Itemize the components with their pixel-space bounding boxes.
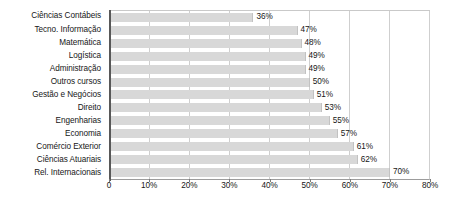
bar-value-label: 49% — [309, 65, 325, 73]
category-label: Rel. Internacionais — [0, 167, 105, 180]
bar — [109, 103, 322, 112]
x-tick-label: 40% — [261, 182, 277, 190]
x-tick-label: 10% — [141, 182, 157, 190]
category-label: Economia — [0, 128, 105, 141]
category-label: Administração — [0, 62, 105, 75]
x-tick-mark — [430, 179, 431, 182]
x-tick-label: 70% — [382, 182, 398, 190]
bar-row: 48% — [109, 37, 429, 50]
bar-value-label: 70% — [393, 168, 409, 176]
x-tick-label: 0 — [107, 182, 112, 190]
bar-row: 53% — [109, 101, 429, 114]
bar-row: 51% — [109, 89, 429, 102]
bar — [109, 65, 306, 74]
bar-value-label: 36% — [256, 13, 272, 21]
bar-value-label: 47% — [301, 26, 317, 34]
category-label: Ciências Contábeis — [0, 10, 105, 23]
bar — [109, 78, 310, 87]
bar — [109, 26, 298, 35]
bar-value-label: 49% — [309, 52, 325, 60]
x-tick-label: 60% — [342, 182, 358, 190]
x-tick-mark — [229, 179, 230, 182]
plot-area: 36%47%48%49%49%50%51%53%55%57%61%62%70% — [109, 10, 430, 180]
bar-row: 62% — [109, 153, 429, 166]
bar-value-label: 50% — [313, 78, 329, 86]
bars-layer: 36%47%48%49%49%50%51%53%55%57%61%62%70% — [109, 11, 429, 179]
category-label: Comércio Exterior — [0, 141, 105, 154]
bar-value-label: 62% — [361, 156, 377, 164]
x-tick-mark — [109, 179, 110, 182]
gridline — [429, 11, 430, 179]
x-tick-mark — [390, 179, 391, 182]
x-tick-mark — [350, 179, 351, 182]
bar-row: 49% — [109, 50, 429, 63]
x-tick-label: 30% — [221, 182, 237, 190]
x-tick-label: 50% — [302, 182, 318, 190]
x-tick-mark — [149, 179, 150, 182]
category-label: Matemática — [0, 36, 105, 49]
category-label: Direito — [0, 102, 105, 115]
bar-value-label: 55% — [333, 117, 349, 125]
category-label: Logística — [0, 49, 105, 62]
category-label: Engenharias — [0, 115, 105, 128]
bar-value-label: 51% — [317, 91, 333, 99]
bar-value-label: 57% — [341, 130, 357, 138]
x-tick-mark — [270, 179, 271, 182]
bar-row: 47% — [109, 24, 429, 37]
x-tick-mark — [189, 179, 190, 182]
bar-chart: Ciências ContábeisTecno. InformaçãoMatem… — [0, 0, 458, 212]
category-label: Gestão e Negócios — [0, 88, 105, 101]
bar — [109, 129, 338, 138]
bar-row: 36% — [109, 11, 429, 24]
category-label: Outros cursos — [0, 75, 105, 88]
bar — [109, 39, 302, 48]
bar-row: 57% — [109, 127, 429, 140]
bar-row: 55% — [109, 114, 429, 127]
x-tick-label: 80% — [422, 182, 438, 190]
bar — [109, 168, 390, 177]
bar-row: 49% — [109, 63, 429, 76]
category-label: Tecno. Informação — [0, 23, 105, 36]
bar-row: 70% — [109, 166, 429, 179]
bar — [109, 142, 354, 151]
bar-row: 61% — [109, 140, 429, 153]
category-axis-labels: Ciências ContábeisTecno. InformaçãoMatem… — [0, 10, 105, 180]
bar — [109, 52, 306, 61]
bar — [109, 13, 253, 22]
bar-value-label: 48% — [305, 39, 321, 47]
bar — [109, 155, 358, 164]
y-axis-line — [109, 10, 111, 181]
category-label: Ciências Atuariais — [0, 154, 105, 167]
bar-row: 50% — [109, 76, 429, 89]
x-tick-mark — [310, 179, 311, 182]
bar — [109, 90, 314, 99]
bar-value-label: 53% — [325, 104, 341, 112]
x-tick-label: 20% — [181, 182, 197, 190]
bar-value-label: 61% — [357, 143, 373, 151]
bar — [109, 116, 330, 125]
x-axis-tick-labels: 010%20%30%40%50%60%70%80% — [109, 182, 430, 198]
